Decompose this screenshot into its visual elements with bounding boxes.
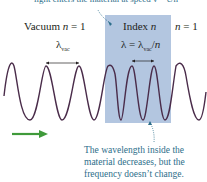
note-line: material decreases, but the	[84, 156, 185, 168]
note-line: The wavelength inside the	[84, 144, 185, 156]
wavelength-note: The wavelength inside the material decre…	[84, 144, 185, 180]
note-line: frequency doesn’t change.	[84, 168, 185, 180]
